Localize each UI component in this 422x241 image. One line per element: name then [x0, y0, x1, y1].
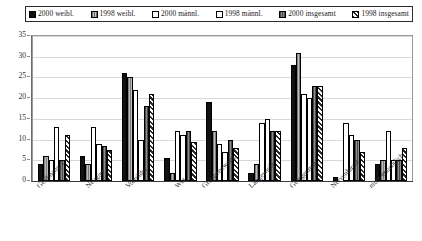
x-axis-label-slot: Gruppenzwang: [201, 182, 243, 240]
y-axis-tick-mark: [27, 76, 30, 77]
y-axis-tick-mark: [27, 35, 30, 36]
legend-item-label: 2000 insgesamt: [288, 10, 336, 17]
bar[interactable]: [107, 150, 112, 181]
bar[interactable]: [233, 148, 238, 181]
bar[interactable]: [275, 131, 280, 181]
light-grey-swatch: [91, 11, 98, 18]
x-axis-label-slot: Gelegenheit: [286, 182, 328, 240]
y-axis-tick-label: 20: [18, 93, 26, 101]
bar-group: [328, 36, 370, 181]
y-axis-tick-label: 25: [18, 73, 26, 81]
y-axis-tick-mark: [27, 97, 30, 98]
y-axis-tick-mark: [27, 159, 30, 160]
legend-item[interactable]: 2000 insgesamt: [279, 10, 336, 17]
x-axis-label-slot: Neugier: [75, 182, 117, 240]
bar-group: [33, 36, 75, 181]
y-axis-tick-label: 30: [18, 52, 26, 60]
bar-group: [244, 36, 286, 181]
diagonal-hatch-swatch: [352, 11, 359, 18]
legend-item[interactable]: 2000 weibl.: [29, 10, 74, 17]
legend-item-label: 2000 männl.: [161, 10, 199, 17]
y-axis-tick-label: 5: [22, 155, 26, 163]
bar[interactable]: [360, 152, 365, 181]
x-axis-label-slot: Vorbilder: [117, 182, 159, 240]
y-axis-tick-mark: [27, 180, 30, 181]
y-axis-tick-mark: [27, 56, 30, 57]
legend-item-label: 1998 insgesamt: [361, 10, 409, 17]
bar[interactable]: [191, 142, 196, 181]
bar-group: [75, 36, 117, 181]
legend-item[interactable]: 1998 insgesamt: [352, 10, 409, 17]
bar[interactable]: [149, 94, 154, 181]
legend-item-label: 1998 männl.: [225, 10, 263, 17]
bar[interactable]: [65, 135, 70, 181]
x-axis-label-slot: Nervenkitzel: [328, 182, 370, 240]
x-axis-label-slot: Geldmangel: [33, 182, 75, 240]
y-axis: 35302520151050: [0, 30, 30, 188]
white-swatch: [216, 11, 223, 18]
x-axis-label-slot: Wut: [159, 182, 201, 240]
legend-item[interactable]: 1998 weibl.: [91, 10, 136, 17]
legend-item[interactable]: 1998 männl.: [216, 10, 263, 17]
white-swatch: [152, 11, 159, 18]
legend-item-label: 1998 weibl.: [100, 10, 136, 17]
y-axis-tick-label: 0: [22, 176, 26, 184]
y-axis-tick-mark: [27, 118, 30, 119]
bar-group: [117, 36, 159, 181]
bar-group: [159, 36, 201, 181]
y-axis-tick-label: 10: [18, 135, 26, 143]
legend-item[interactable]: 2000 männl.: [152, 10, 199, 17]
x-axis-labels: GeldmangelNeugierVorbilderWutGruppenzwan…: [33, 182, 412, 240]
chart-legend: 2000 weibl.1998 weibl.2000 männl.1998 mä…: [25, 6, 413, 22]
bar-chart: 2000 weibl.1998 weibl.2000 männl.1998 mä…: [0, 0, 422, 241]
bar[interactable]: [402, 148, 407, 181]
y-axis-tick-label: 35: [18, 31, 26, 39]
x-axis-label-slot: Langeweile: [244, 182, 286, 240]
dark-grey-swatch: [279, 11, 286, 18]
bar-group: [286, 36, 328, 181]
x-axis-label-slot: nicht ersichtlich: [370, 182, 412, 240]
solid-black-swatch: [29, 11, 36, 18]
legend-item-label: 2000 weibl.: [38, 10, 74, 17]
y-axis-tick-mark: [27, 139, 30, 140]
bar[interactable]: [317, 86, 322, 181]
y-axis-tick-label: 15: [18, 114, 26, 122]
bar-group: [201, 36, 243, 181]
